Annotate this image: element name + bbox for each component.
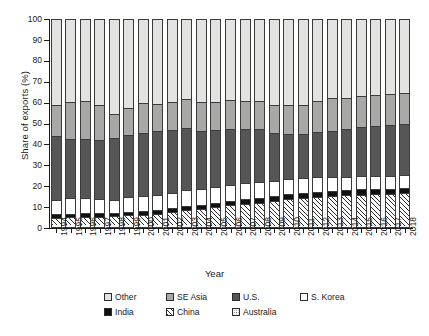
x-axis-tick [187,229,188,233]
bar-segment-seasia [312,101,323,132]
bar-segment-seasia [327,98,338,131]
x-axis-tick-label: 2013 [336,217,345,236]
y-axis-tick-label: 100 [6,15,42,24]
bar-segment-seasia [225,100,236,128]
bar-segment-skorea [123,197,134,212]
x-axis-tick [231,229,232,233]
legend-item-australia[interactable]: Australia [232,304,276,319]
x-axis-tick-label: 2017 [394,217,403,236]
bar-1996[interactable] [80,19,91,228]
x-axis-title: Year [0,268,429,279]
bar-segment-seasia [65,102,76,138]
bar-segment-skorea [312,177,323,191]
y-axis-tick-label: 80 [6,56,42,65]
bar-segment-other [167,19,178,102]
legend-item-seasia[interactable]: SE Asia [166,289,207,304]
bar-segment-seasia [254,101,265,129]
y-axis-tick-label: 60 [6,98,42,107]
legend-item-us[interactable]: U.S. [232,289,260,304]
x-axis-tick [158,229,159,233]
legend-label: China [177,307,199,317]
bar-2006[interactable] [225,19,236,228]
bar-2011[interactable] [298,19,309,228]
legend-item-china[interactable]: China [166,304,199,319]
bar-segment-skorea [80,198,91,213]
bar-segment-seasia [80,101,91,139]
bar-2002[interactable] [167,19,178,228]
bar-segment-india [138,211,149,215]
bar-2010[interactable] [283,19,294,228]
bar-segment-skorea [196,189,207,205]
x-axis-tick-label: 2006 [235,217,244,236]
bar-segment-us [123,135,134,197]
bar-segment-other [298,19,309,105]
x-axis-tick-label: 1995 [75,217,84,236]
x-axis-tick-label: 2018 [409,217,418,236]
bar-2016[interactable] [370,19,381,228]
x-axis-tick-label: 2002 [176,217,185,236]
bar-2009[interactable] [269,19,280,228]
bar-segment-skorea [269,181,280,196]
bar-2014[interactable] [341,19,352,228]
bar-segment-other [80,19,91,101]
bar-2003[interactable] [181,19,192,228]
y-axis-tick-label: 40 [6,140,42,149]
bar-segment-other [225,19,236,100]
bar-1998[interactable] [109,19,120,228]
legend-item-india[interactable]: India [104,304,134,319]
bar-segment-skorea [399,175,410,188]
y-axis-tick-label: 30 [6,161,42,170]
legend-item-skorea[interactable]: S. Korea [300,289,344,304]
x-axis-tick-label: 1996 [89,217,98,236]
bar-2000[interactable] [138,19,149,228]
bar-2001[interactable] [152,19,163,228]
x-axis-tick-label: 2004 [205,217,214,236]
bar-2007[interactable] [240,19,251,228]
bar-segment-us [283,134,294,180]
bar-segment-seasia [399,93,410,124]
bar-segment-india [356,189,367,194]
y-axis-tick-label: 70 [6,77,42,86]
x-axis-tick [274,229,275,233]
bar-2013[interactable] [327,19,338,228]
bar-segment-seasia [210,102,221,130]
x-axis-tick [390,229,391,233]
x-axis-tick [56,229,57,233]
y-axis-tick-label: 90 [6,36,42,45]
bar-segment-other [138,19,149,103]
bar-segment-us [80,139,91,198]
bar-1994[interactable] [51,19,62,228]
bar-2005[interactable] [210,19,221,228]
bar-2012[interactable] [312,19,323,228]
bar-1995[interactable] [65,19,76,228]
white-square-icon [300,293,308,301]
bar-segment-skorea [138,196,149,211]
bar-1999[interactable] [123,19,134,228]
bar-segment-india [181,206,192,210]
bar-segment-seasia [167,102,178,130]
legend-item-other[interactable]: Other [104,289,137,304]
bar-segment-us [94,140,105,199]
bar-segment-us [109,138,120,199]
bar-2017[interactable] [385,19,396,228]
bar-segment-us [196,131,207,189]
bar-segment-other [312,19,323,101]
bar-2015[interactable] [356,19,367,228]
bar-segment-skorea [152,195,163,209]
bar-segment-skorea [254,182,265,197]
y-axis-tick [44,103,49,104]
bar-segment-india [225,201,236,205]
bar-segment-us [240,129,251,183]
dotted-square-icon [232,308,240,316]
bar-2018[interactable] [399,19,410,228]
bar-2004[interactable] [196,19,207,228]
bar-segment-india [283,194,294,199]
bar-1997[interactable] [94,19,105,228]
y-axis-tick-label: 50 [6,119,42,128]
bar-segment-skorea [210,187,221,203]
bar-2008[interactable] [254,19,265,228]
bar-segment-india [94,213,105,217]
bar-segment-seasia [240,101,251,129]
legend-label: U.S. [243,292,260,302]
x-axis-tick-label: 1997 [104,217,113,236]
